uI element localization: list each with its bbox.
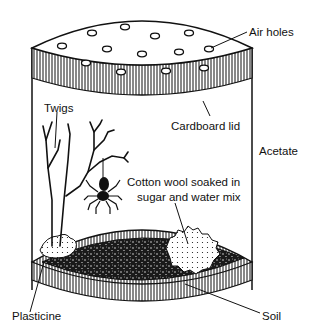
plasticine-lump <box>40 234 76 258</box>
terrarium-drawing <box>0 0 314 333</box>
label-cardboard-lid: Cardboard lid <box>171 120 240 133</box>
label-air-holes: Air holes <box>249 26 294 39</box>
label-acetate: Acetate <box>259 145 298 158</box>
label-twigs: Twigs <box>44 102 73 115</box>
label-soil: Soil <box>262 310 281 323</box>
label-cotton-wool-line1: Cotton wool soaked in <box>127 176 240 189</box>
cardboard-lid <box>32 21 252 95</box>
label-cotton-wool-line2: sugar and water mix <box>137 191 241 204</box>
label-plasticine: Plasticine <box>12 310 61 323</box>
